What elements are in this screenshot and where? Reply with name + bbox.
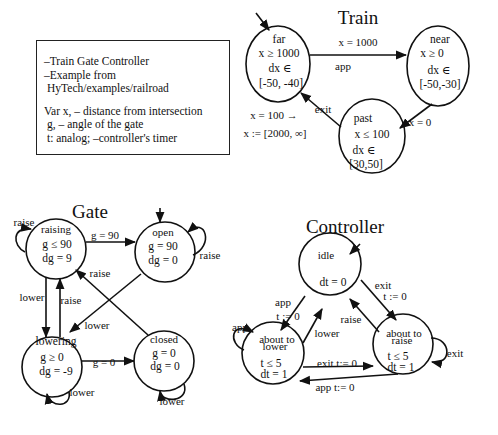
gate-title: Gate: [72, 201, 108, 222]
open-flow: dg = 0: [148, 254, 178, 267]
edge-label-lowering-raising: raise: [61, 294, 82, 306]
edge-label-raise-idle: raise: [341, 313, 362, 325]
edge-label-raise-self: exit: [447, 347, 464, 359]
open-name: open: [152, 226, 174, 238]
edge-label-past-far-guard: x = 100 →: [250, 109, 297, 121]
initial-arrow-far: [256, 13, 269, 30]
far-invariant: x ≥ 1000: [259, 47, 300, 59]
past-name: past: [354, 112, 373, 125]
far-name: far: [273, 33, 286, 45]
past-flow-2: [30,50]: [349, 158, 383, 171]
controller-title: Controller: [306, 216, 385, 237]
edge-label-far-near-event: app: [335, 60, 351, 72]
open-invariant: g = 90: [148, 240, 178, 253]
edge-label-raising-self: raise: [14, 216, 35, 228]
about-to-raise-flow: dt = 1: [388, 361, 415, 373]
past-flow-1: dx ∈: [353, 144, 376, 156]
raising-flow: dg = 9: [42, 252, 72, 265]
about-to-lower-name-2: lower: [262, 340, 287, 352]
edge-label-past-far-reset: x := [2000, ∞]: [244, 127, 307, 139]
lowering-invariant: g ≥ 0: [40, 351, 64, 364]
edge-label-open-lowering: lower: [84, 319, 109, 331]
about-to-lower-flow: dt = 1: [261, 368, 288, 380]
edge-label-lowering-closed: g = 0: [93, 356, 116, 368]
edge-label-closed-self: lower: [159, 395, 184, 407]
far-flow-1: dx ∈: [269, 62, 292, 74]
closed-flow: dg = 0: [150, 360, 180, 373]
edge-label-idle-lower-reset: t := 0: [276, 310, 300, 322]
edge-label-raise-lower: app t:= 0: [315, 381, 355, 393]
edge-label-far-near-guard: x = 1000: [338, 36, 378, 48]
loop-raising: [16, 229, 31, 252]
near-flow-2: [-50,-30]: [419, 78, 460, 91]
near-invariant: x ≥ 0: [420, 47, 444, 59]
edge-label-lowering-self: lower: [69, 386, 94, 398]
edge-label-open-self: raise: [200, 249, 221, 261]
idle-flow: dt = 0: [320, 276, 347, 288]
automata-diagram: Train far x ≥ 1000 dx ∈ [-50, -40] near …: [0, 0, 498, 435]
raising-invariant: g ≤ 90: [42, 238, 72, 251]
near-name: near: [430, 33, 450, 45]
closed-name: closed: [150, 333, 179, 345]
edge-label-idle-lower-event: app: [275, 296, 291, 308]
edge-label-past-far-event: exit: [315, 103, 332, 115]
closed-invariant: g = 0: [152, 347, 176, 360]
idle-name: idle: [318, 249, 335, 261]
edge-label-near-past-guard: x = 0: [409, 116, 432, 128]
near-flow-1: dx ∈: [428, 64, 451, 76]
edge-label-closed-raising: raise: [90, 267, 111, 279]
edge-label-lower-idle: lower: [314, 327, 339, 339]
train-title: Train: [338, 7, 379, 28]
edge-label-lower-raise: exit t:= 0: [317, 357, 357, 369]
far-flow-2: [-50, -40]: [259, 77, 303, 90]
edge-label-raising-lowering: lower: [19, 291, 44, 303]
past-invariant: x ≤ 100: [354, 128, 389, 140]
edge-label-lower-self: app: [232, 321, 248, 333]
lowering-flow: dg = -9: [39, 365, 73, 378]
lowering-name: lowering: [36, 335, 77, 348]
edge-raise-lower: [300, 374, 398, 381]
about-to-raise-name-2: raise: [392, 334, 413, 346]
edge-label-raising-open: g = 90: [91, 229, 120, 241]
edge-label-idle-raise-reset: t := 0: [383, 290, 407, 302]
raising-name: raising: [41, 223, 71, 235]
